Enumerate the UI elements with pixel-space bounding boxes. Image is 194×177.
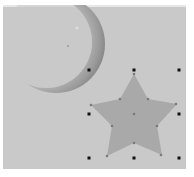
moon-point-handle — [67, 45, 69, 47]
resize-handle-bottom-center — [133, 157, 136, 160]
resize-handle-top-left — [88, 69, 91, 72]
resize-handle-bottom-left — [88, 157, 91, 160]
moon-point-handle — [76, 27, 79, 30]
star-center-handle — [133, 113, 136, 116]
resize-handle-middle-right — [178, 113, 181, 116]
resize-handle-middle-left — [88, 113, 91, 116]
drawing-layer — [0, 0, 194, 177]
resize-handle-bottom-right — [178, 157, 181, 160]
resize-handle-top-right — [178, 69, 181, 72]
resize-handle-top-center — [133, 69, 136, 72]
crescent-moon-shape[interactable] — [0, 0, 105, 93]
